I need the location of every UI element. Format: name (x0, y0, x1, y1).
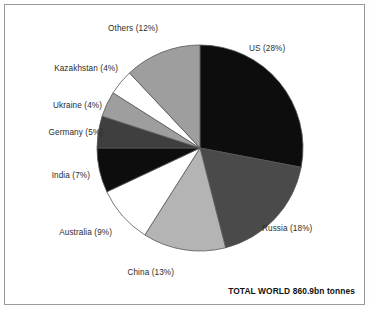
pie-label-us: US (28%) (249, 44, 285, 54)
pie-slice-us (200, 45, 303, 167)
total-world-note: TOTAL WORLD 860.9bn tonnes (228, 286, 355, 296)
pie-slices-group (97, 45, 303, 251)
pie-label-russia: Russia (18%) (262, 224, 312, 234)
pie-label-ukraine: Ukraine (4%) (12, 101, 102, 111)
pie-label-india: India (7%) (16, 171, 90, 181)
pie-label-germany: Germany (5%) (10, 128, 103, 138)
pie-label-others: Others (12%) (70, 24, 158, 34)
pie-label-china: China (13%) (92, 268, 174, 278)
pie-label-kazakhstan: Kazakhstan (4%) (12, 64, 118, 74)
pie-chart-figure: US (28%) Russia (18%) China (13%) Austra… (0, 0, 369, 309)
pie-chart-canvas (0, 0, 369, 309)
pie-label-australia: Australia (9%) (27, 228, 112, 238)
